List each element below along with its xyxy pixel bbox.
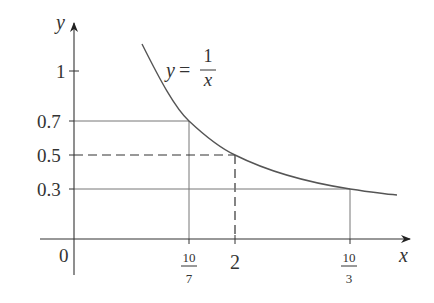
y-tick-label-0.3: 0.3: [37, 179, 61, 200]
x-tick-label-10-3-num: 10: [343, 250, 356, 265]
equation-denominator: x: [203, 69, 213, 90]
x-tick-label-10-7-num: 10: [183, 250, 196, 265]
y-axis-label: y: [54, 11, 65, 34]
x-tick-label-2: 2: [230, 251, 240, 273]
y-tick-label-0.7: 0.7: [37, 111, 61, 132]
x-tick-label-10-7-den: 7: [186, 271, 193, 286]
x-tick-label-10-3: 10 3: [341, 250, 357, 286]
graph-canvas: y 1 0.7 0.5 0.3 0 x 10 7 2 10 3 y = 1 x: [0, 0, 434, 303]
guide-lines: [74, 121, 350, 239]
x-axis-label: x: [398, 244, 408, 266]
equation-lhs: y: [164, 59, 175, 82]
x-tick-label-10-7: 10 7: [181, 250, 197, 286]
x-tick-label-10-3-den: 3: [346, 271, 353, 286]
curve-equation-label: y = 1 x: [164, 46, 216, 90]
origin-label: 0: [59, 245, 69, 266]
equation-equals: =: [179, 59, 190, 81]
y-tick-label-0.5: 0.5: [37, 145, 61, 166]
y-tick-label-1: 1: [56, 61, 66, 82]
equation-numerator: 1: [204, 46, 213, 66]
